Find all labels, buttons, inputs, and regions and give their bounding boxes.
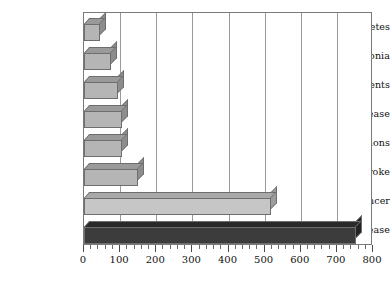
x-axis-tick-label: 600 bbox=[290, 254, 309, 265]
bar-drug-reactions bbox=[84, 140, 122, 157]
bar-side-face bbox=[356, 215, 362, 238]
bar-side-face bbox=[111, 41, 117, 64]
x-axis-tick-labels: 0100200300400500600700800 bbox=[83, 254, 372, 270]
x-tick-minor bbox=[256, 245, 257, 249]
bar-side-face bbox=[138, 157, 144, 180]
x-tick-major bbox=[300, 245, 301, 252]
bar-front-face bbox=[84, 24, 100, 41]
x-axis-ticks bbox=[83, 245, 372, 252]
x-tick-minor bbox=[199, 245, 200, 249]
x-tick-minor bbox=[358, 245, 359, 249]
x-tick-major bbox=[83, 245, 84, 252]
bar-front-face bbox=[84, 53, 111, 70]
bar-row bbox=[84, 218, 373, 244]
x-tick-minor bbox=[184, 245, 185, 249]
x-tick-minor bbox=[126, 245, 127, 249]
bar-front-face bbox=[84, 227, 356, 244]
x-tick-minor bbox=[162, 245, 163, 249]
bar-side-face bbox=[122, 99, 128, 122]
bar-front-face bbox=[84, 169, 138, 186]
x-tick-major bbox=[119, 245, 120, 252]
x-tick-minor bbox=[90, 245, 91, 249]
x-tick-major bbox=[191, 245, 192, 252]
x-tick-minor bbox=[220, 245, 221, 249]
x-tick-major bbox=[336, 245, 337, 252]
x-tick-minor bbox=[97, 245, 98, 249]
x-tick-minor bbox=[271, 245, 272, 249]
bar-pneumonia bbox=[84, 53, 111, 70]
bar-row bbox=[84, 102, 373, 128]
x-tick-major bbox=[228, 245, 229, 252]
x-tick-minor bbox=[278, 245, 279, 249]
x-tick-minor bbox=[134, 245, 135, 249]
bar-side-face bbox=[271, 186, 277, 209]
x-axis-tick-label: 0 bbox=[80, 254, 86, 265]
bar-row bbox=[84, 160, 373, 186]
bar-side-face bbox=[100, 12, 106, 35]
x-axis-tick-label: 100 bbox=[110, 254, 129, 265]
x-tick-minor bbox=[350, 245, 351, 249]
bar-front-face bbox=[84, 111, 122, 128]
x-tick-major bbox=[155, 245, 156, 252]
bar-lung-disease bbox=[84, 111, 122, 128]
x-tick-minor bbox=[148, 245, 149, 249]
x-tick-minor bbox=[213, 245, 214, 249]
bar-accidents bbox=[84, 82, 118, 99]
x-tick-major bbox=[264, 245, 265, 252]
bar-front-face bbox=[84, 198, 271, 215]
bar-front-face bbox=[84, 82, 118, 99]
x-tick-major bbox=[372, 245, 373, 252]
x-tick-minor bbox=[365, 245, 366, 249]
bar-row bbox=[84, 15, 373, 41]
x-axis-tick-label: 300 bbox=[182, 254, 201, 265]
bar-heart-disease bbox=[84, 227, 356, 244]
x-axis-tick-label: 500 bbox=[254, 254, 273, 265]
x-tick-minor bbox=[329, 245, 330, 249]
bar-row bbox=[84, 73, 373, 99]
x-tick-minor bbox=[314, 245, 315, 249]
x-axis-tick-label: 800 bbox=[362, 254, 381, 265]
bar-diabetes bbox=[84, 24, 100, 41]
x-tick-minor bbox=[307, 245, 308, 249]
bar-cancer bbox=[84, 198, 271, 215]
x-axis-tick-label: 700 bbox=[326, 254, 345, 265]
x-tick-minor bbox=[343, 245, 344, 249]
x-tick-minor bbox=[141, 245, 142, 249]
x-tick-minor bbox=[112, 245, 113, 249]
x-tick-minor bbox=[321, 245, 322, 249]
x-tick-minor bbox=[105, 245, 106, 249]
plot-area bbox=[83, 12, 372, 245]
bar-side-face bbox=[118, 70, 124, 93]
x-tick-minor bbox=[242, 245, 243, 249]
x-tick-minor bbox=[235, 245, 236, 249]
x-tick-minor bbox=[293, 245, 294, 249]
bar-front-face bbox=[84, 140, 122, 157]
bar-row bbox=[84, 131, 373, 157]
x-axis-tick-label: 200 bbox=[146, 254, 165, 265]
bar-row bbox=[84, 189, 373, 215]
x-tick-minor bbox=[249, 245, 250, 249]
bar-chart: diabetespneumoniaaccidentslung diseasedr… bbox=[0, 0, 390, 285]
bar-side-face bbox=[122, 128, 128, 151]
bar-row bbox=[84, 44, 373, 70]
x-tick-minor bbox=[177, 245, 178, 249]
x-tick-minor bbox=[206, 245, 207, 249]
bar-stroke bbox=[84, 169, 138, 186]
x-axis-tick-label: 400 bbox=[218, 254, 237, 265]
x-tick-minor bbox=[170, 245, 171, 249]
x-tick-minor bbox=[285, 245, 286, 249]
